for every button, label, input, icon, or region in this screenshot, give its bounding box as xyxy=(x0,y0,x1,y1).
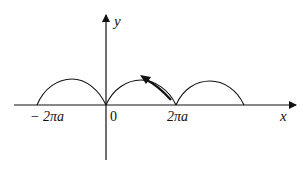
cycloid-arch-right xyxy=(176,81,244,105)
x-axis-label: x xyxy=(279,108,287,124)
tick-label-neg-2pi-a: − 2πa xyxy=(30,109,64,124)
tick-label-2pi-a: 2πa xyxy=(167,109,188,124)
cycloid-diagram: y x 0 − 2πa 2πa xyxy=(0,0,305,171)
y-axis-label: y xyxy=(112,13,121,29)
cycloid-arch-middle xyxy=(106,80,176,105)
origin-label: 0 xyxy=(110,109,117,124)
direction-arrow xyxy=(145,79,171,100)
cycloid-arch-left xyxy=(37,79,106,105)
